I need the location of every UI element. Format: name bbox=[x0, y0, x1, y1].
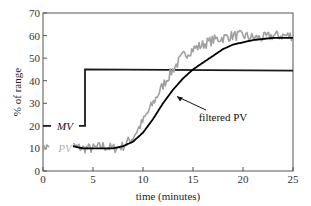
y-tick-label: 70 bbox=[29, 7, 41, 19]
x-tick-label: 15 bbox=[188, 173, 200, 185]
x-tick-label: 25 bbox=[288, 173, 300, 185]
series-group bbox=[43, 31, 293, 153]
y-axis-label: % of range bbox=[11, 68, 23, 116]
pv-line-start bbox=[43, 145, 49, 152]
x-tick-label: 0 bbox=[40, 173, 46, 185]
y-tick-label: 10 bbox=[29, 142, 41, 154]
pv-line bbox=[73, 31, 293, 153]
filtered-pv-line bbox=[73, 38, 293, 149]
mv-line bbox=[79, 69, 293, 125]
axis-ticks: 0510152025010203040506070 bbox=[29, 7, 299, 185]
y-tick-label: 20 bbox=[29, 120, 41, 132]
mv-label: MV bbox=[56, 120, 74, 132]
pv-label: PV bbox=[57, 142, 73, 154]
x-axis-label: time (minutes) bbox=[136, 190, 201, 203]
chart: 0510152025010203040506070 MVPVfiltered P… bbox=[0, 0, 311, 206]
y-tick-label: 60 bbox=[29, 30, 41, 42]
x-tick-label: 10 bbox=[138, 173, 150, 185]
y-tick-label: 40 bbox=[29, 75, 41, 87]
x-tick-label: 20 bbox=[238, 173, 250, 185]
y-tick-label: 0 bbox=[35, 165, 41, 177]
y-tick-label: 50 bbox=[29, 52, 41, 64]
y-tick-label: 30 bbox=[29, 97, 41, 109]
x-tick-label: 5 bbox=[90, 173, 96, 185]
filtered-pv-label: filtered PV bbox=[199, 111, 248, 123]
